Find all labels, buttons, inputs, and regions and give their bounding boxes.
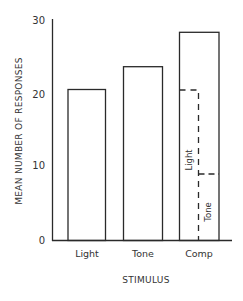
comp-light-label: Light — [184, 149, 194, 171]
x-axis-title: STIMULUS — [122, 275, 169, 285]
x-category-light: Light — [75, 248, 99, 259]
y-axis-title: MEAN NUMBER OF RESPONSES — [14, 57, 24, 205]
y-tick-20: 20 — [32, 89, 45, 100]
x-category-tone: Tone — [131, 248, 154, 259]
bar-tone — [124, 67, 163, 241]
y-tick-10: 10 — [32, 160, 45, 171]
comp-tone-label: Tone — [203, 202, 213, 223]
bar-comp — [180, 32, 220, 240]
bar-light — [68, 90, 106, 241]
bar-chart: 0 10 20 30 MEAN NUMBER OF RESPONSES Ligh… — [0, 0, 243, 301]
y-tick-0: 0 — [39, 235, 45, 246]
y-tick-30: 30 — [32, 15, 45, 26]
x-category-comp: Comp — [185, 248, 213, 259]
